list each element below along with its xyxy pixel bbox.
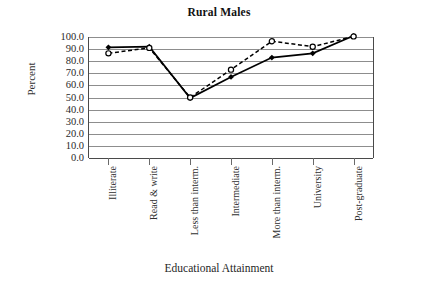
data-point-filled-diamond bbox=[269, 55, 275, 61]
data-point-open-circle bbox=[188, 95, 193, 100]
x-tick bbox=[231, 158, 232, 165]
y-tick-label: 80.0 bbox=[38, 56, 84, 67]
x-tick-label: University bbox=[311, 166, 322, 208]
x-tick-label: Less than interm. bbox=[189, 166, 200, 235]
x-tick bbox=[313, 158, 314, 165]
data-point-filled-diamond bbox=[106, 44, 112, 50]
x-tick-label: Illiterate bbox=[107, 166, 118, 200]
y-tick-label: 50.0 bbox=[38, 93, 84, 104]
y-tick-label: 60.0 bbox=[38, 80, 84, 91]
x-tick bbox=[108, 158, 109, 165]
data-point-filled-diamond bbox=[228, 74, 234, 80]
x-tick-label: More than interm. bbox=[270, 166, 281, 238]
data-point-filled-diamond bbox=[310, 50, 316, 56]
data-point-open-circle bbox=[106, 51, 111, 56]
y-tick-label: 30.0 bbox=[38, 117, 84, 128]
y-axis-tick-labels: 100.090.080.070.060.050.040.030.020.010.… bbox=[36, 37, 84, 158]
x-axis-title: Educational Attainment bbox=[0, 262, 438, 274]
x-tick bbox=[190, 158, 191, 165]
data-point-open-circle bbox=[228, 67, 233, 72]
y-tick-label: 0.0 bbox=[38, 153, 84, 164]
x-tick-label: Intermediate bbox=[230, 166, 241, 217]
y-tick-label: 70.0 bbox=[38, 68, 84, 79]
chart-title: Rural Males bbox=[0, 6, 438, 18]
series-layer bbox=[88, 37, 374, 158]
data-point-open-circle bbox=[310, 44, 315, 49]
x-axis-tick-labels: IlliterateRead & writeLess than interm.I… bbox=[88, 166, 374, 256]
data-point-open-circle bbox=[269, 39, 274, 44]
y-tick-label: 20.0 bbox=[38, 129, 84, 140]
y-tick-label: 40.0 bbox=[38, 105, 84, 116]
x-tick bbox=[149, 158, 150, 165]
x-tick-label: Post-graduate bbox=[352, 166, 363, 221]
y-tick-label: 90.0 bbox=[38, 44, 84, 55]
chart-canvas: Rural Males Percent 100.090.080.070.060.… bbox=[0, 0, 438, 283]
x-tick-label: Read & write bbox=[148, 166, 159, 220]
x-tick bbox=[272, 158, 273, 165]
y-tick-label: 10.0 bbox=[38, 141, 84, 152]
x-tick bbox=[354, 158, 355, 165]
data-point-open-circle bbox=[147, 45, 152, 50]
y-tick-label: 100.0 bbox=[38, 32, 84, 43]
data-point-open-circle bbox=[351, 34, 356, 39]
